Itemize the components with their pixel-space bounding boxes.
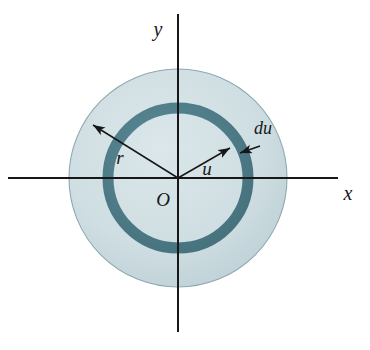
- origin-label: O: [156, 189, 170, 210]
- thickness-du-label: du: [254, 118, 272, 138]
- y-axis-label: y: [152, 18, 163, 41]
- radius-r-label: r: [116, 147, 124, 168]
- figure-container: y x O r u du: [0, 0, 370, 350]
- radius-u-label: u: [202, 158, 212, 179]
- annulus-diagram: y x O r u du: [0, 0, 370, 350]
- x-axis-label: x: [343, 182, 353, 204]
